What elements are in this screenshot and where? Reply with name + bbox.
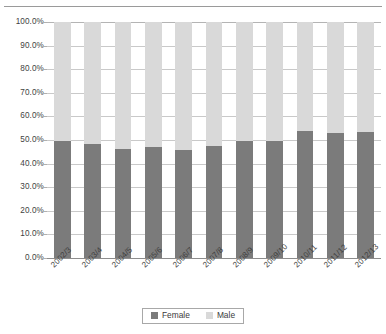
bar-segment-female[interactable] bbox=[357, 132, 374, 258]
bar-segment-male[interactable] bbox=[297, 22, 314, 131]
y-axis: 100.0%90.0%80.0%70.0%60.0%50.0%40.0%30.0… bbox=[0, 0, 44, 334]
stacked-bar[interactable] bbox=[236, 22, 253, 258]
y-axis-tick-mark bbox=[42, 93, 47, 94]
x-axis-slot: 2011/12 bbox=[320, 258, 350, 304]
bar-slot bbox=[199, 22, 229, 258]
y-axis-tick-label: 10.0% bbox=[0, 230, 44, 238]
y-axis-tick-label: 80.0% bbox=[0, 65, 44, 73]
x-axis-slot: 2007/8 bbox=[199, 258, 229, 304]
x-axis-slot: 2010/11 bbox=[290, 258, 320, 304]
legend-box: FemaleMale bbox=[142, 308, 244, 324]
bar-slot bbox=[320, 22, 350, 258]
y-axis-tick-label: 20.0% bbox=[0, 207, 44, 215]
bar-slot bbox=[77, 22, 107, 258]
y-axis-tick-mark bbox=[42, 234, 47, 235]
y-axis-tick-label: 30.0% bbox=[0, 183, 44, 191]
stacked-bar[interactable] bbox=[145, 22, 162, 258]
stacked-bar[interactable] bbox=[327, 22, 344, 258]
bar-slot bbox=[351, 22, 381, 258]
stacked-bar[interactable] bbox=[54, 22, 71, 258]
x-axis: 2002/32003/42004/52005/62006/72007/82008… bbox=[47, 258, 381, 304]
plot-area bbox=[47, 22, 381, 258]
stacked-bar[interactable] bbox=[115, 22, 132, 258]
bar-segment-male[interactable] bbox=[357, 22, 374, 132]
legend-item[interactable]: Female bbox=[151, 311, 190, 320]
y-axis-tick-mark bbox=[42, 46, 47, 47]
bar-segment-male[interactable] bbox=[175, 22, 192, 150]
y-axis-tick-label: 100.0% bbox=[0, 18, 44, 26]
stacked-bar[interactable] bbox=[175, 22, 192, 258]
bar-slot bbox=[260, 22, 290, 258]
legend-swatch-icon bbox=[206, 312, 213, 319]
y-axis-tick-label: 50.0% bbox=[0, 136, 44, 144]
y-axis-tick-mark bbox=[42, 258, 47, 259]
y-axis-tick-label: 60.0% bbox=[0, 112, 44, 120]
bar-segment-female[interactable] bbox=[115, 149, 132, 258]
y-axis-tick-mark bbox=[42, 164, 47, 165]
bar-segment-female[interactable] bbox=[327, 133, 344, 258]
bar-segment-female[interactable] bbox=[236, 141, 253, 258]
x-axis-slot: 2006/7 bbox=[168, 258, 198, 304]
stacked-column-chart: 100.0%90.0%80.0%70.0%60.0%50.0%40.0%30.0… bbox=[0, 0, 386, 334]
y-axis-tick-label: 40.0% bbox=[0, 159, 44, 167]
bar-slot bbox=[138, 22, 168, 258]
bar-slot bbox=[290, 22, 320, 258]
x-axis-slot: 2012/13 bbox=[351, 258, 381, 304]
y-axis-tick-label: 90.0% bbox=[0, 41, 44, 49]
x-axis-slot: 2003/4 bbox=[77, 258, 107, 304]
y-axis-tick-label: 0.0% bbox=[0, 254, 44, 262]
bar-segment-female[interactable] bbox=[175, 150, 192, 258]
bar-segment-female[interactable] bbox=[266, 141, 283, 258]
y-axis-tick-label: 70.0% bbox=[0, 89, 44, 97]
y-axis-tick-mark bbox=[42, 69, 47, 70]
x-axis-slot: 2008/9 bbox=[229, 258, 259, 304]
bar-segment-male[interactable] bbox=[145, 22, 162, 147]
x-axis-slot: 2005/6 bbox=[138, 258, 168, 304]
y-axis-tick-mark bbox=[42, 211, 47, 212]
bar-segment-female[interactable] bbox=[54, 141, 71, 258]
bar-slot bbox=[108, 22, 138, 258]
bar-segment-male[interactable] bbox=[206, 22, 223, 146]
bar-slot bbox=[47, 22, 77, 258]
legend-label: Male bbox=[217, 311, 235, 320]
legend-item[interactable]: Male bbox=[206, 311, 235, 320]
y-axis-tick-mark bbox=[42, 22, 47, 23]
bar-segment-female[interactable] bbox=[297, 131, 314, 258]
stacked-bar[interactable] bbox=[206, 22, 223, 258]
bar-segment-male[interactable] bbox=[266, 22, 283, 141]
bar-segment-male[interactable] bbox=[115, 22, 132, 149]
bar-segment-female[interactable] bbox=[84, 144, 101, 258]
legend-label: Female bbox=[162, 311, 190, 320]
bar-segment-female[interactable] bbox=[206, 146, 223, 258]
bar-slot bbox=[229, 22, 259, 258]
stacked-bar[interactable] bbox=[297, 22, 314, 258]
bar-series-group bbox=[47, 22, 381, 258]
y-axis-tick-mark bbox=[42, 187, 47, 188]
bar-segment-female[interactable] bbox=[145, 147, 162, 258]
stacked-bar[interactable] bbox=[84, 22, 101, 258]
x-axis-slot: 2002/3 bbox=[47, 258, 77, 304]
stacked-bar[interactable] bbox=[266, 22, 283, 258]
bar-segment-male[interactable] bbox=[236, 22, 253, 141]
bar-segment-male[interactable] bbox=[84, 22, 101, 144]
stacked-bar[interactable] bbox=[357, 22, 374, 258]
x-axis-slot: 2004/5 bbox=[108, 258, 138, 304]
y-axis-tick-mark bbox=[42, 140, 47, 141]
bar-slot bbox=[168, 22, 198, 258]
y-axis-tick-mark bbox=[42, 116, 47, 117]
legend: FemaleMale bbox=[0, 308, 386, 324]
bar-segment-male[interactable] bbox=[54, 22, 71, 141]
x-axis-slot: 2009/10 bbox=[260, 258, 290, 304]
legend-swatch-icon bbox=[151, 312, 158, 319]
bar-segment-male[interactable] bbox=[327, 22, 344, 133]
